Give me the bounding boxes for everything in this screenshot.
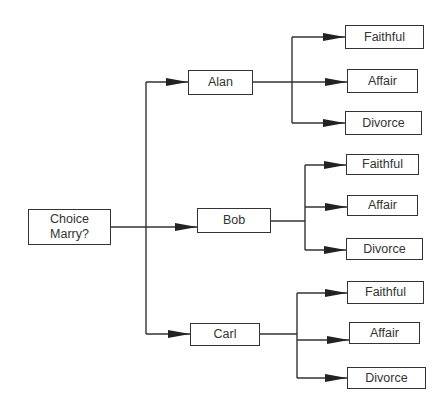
outcome-node-bob-affair: Affair <box>347 195 418 216</box>
outcome-node-bob-divorce: Divorce <box>346 238 423 260</box>
outcome-node-alan-affair: Affair <box>347 69 418 93</box>
outcome-node-alan-faithful: Faithful <box>345 25 424 49</box>
outcome-node-bob-faithful: Faithful <box>346 154 419 175</box>
outcome-node-carl-faithful: Faithful <box>347 281 424 304</box>
choice-node-alan: Alan <box>188 70 253 95</box>
outcome-node-alan-divorce: Divorce <box>345 111 422 135</box>
root-choice-node: Choice Marry? <box>28 209 111 245</box>
choice-node-carl: Carl <box>190 323 260 346</box>
outcome-node-carl-divorce: Divorce <box>347 367 426 389</box>
root-label-line2: Marry? <box>50 227 89 242</box>
choice-node-bob: Bob <box>197 208 271 233</box>
root-label-line1: Choice <box>50 212 89 227</box>
outcome-node-carl-affair: Affair <box>349 322 420 344</box>
